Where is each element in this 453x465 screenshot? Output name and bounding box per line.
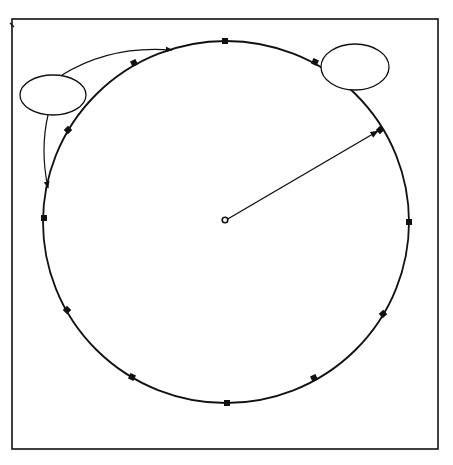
plywood-form-callout — [20, 75, 86, 115]
plywood-arrow-top — [62, 49, 172, 75]
stakes-arrow-top — [311, 53, 323, 60]
stake-icon — [310, 374, 318, 382]
plywood-arrow-left — [44, 115, 48, 188]
stake-icon — [376, 126, 384, 134]
stake-icon — [406, 219, 412, 225]
stake-icon — [41, 215, 47, 221]
stake-icon — [222, 38, 228, 44]
center-point-icon — [222, 217, 228, 223]
radius-line — [226, 131, 378, 220]
stake-icon — [130, 59, 138, 67]
circle-area-diagram — [0, 0, 453, 465]
stake-icon — [224, 400, 230, 406]
supporting-stakes-callout — [321, 44, 389, 90]
